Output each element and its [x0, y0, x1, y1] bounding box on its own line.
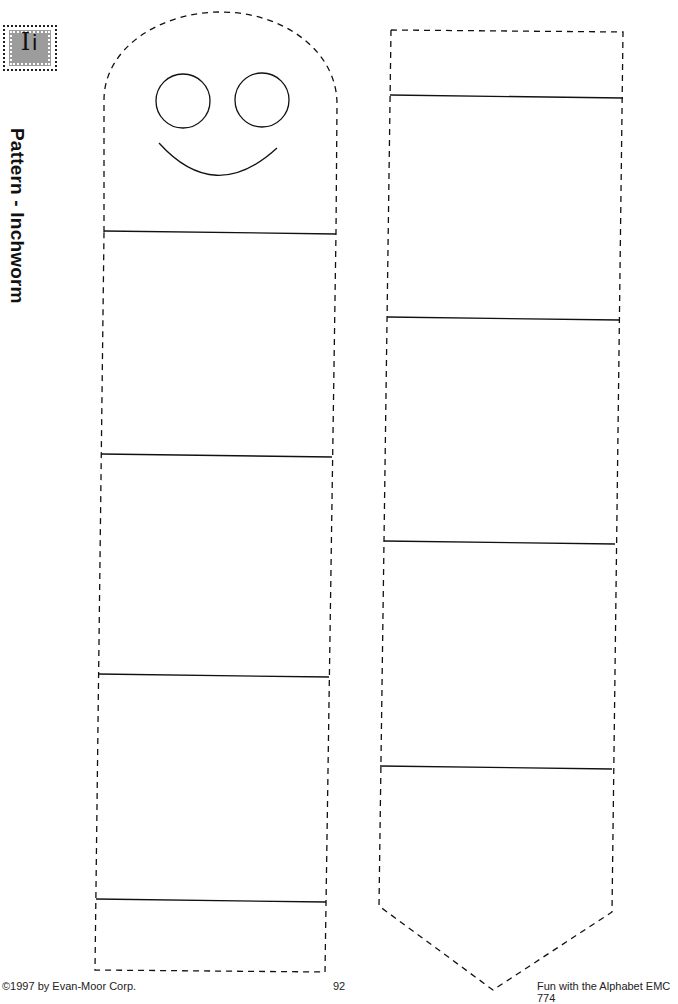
right-eye-icon [235, 73, 289, 127]
inchworm-head-pattern [95, 12, 337, 972]
fold-line-4 [380, 766, 612, 769]
copyright-text: ©1997 by Evan-Moor Corp. [2, 980, 136, 992]
smile-icon [159, 143, 277, 175]
fold-line-2 [101, 454, 332, 457]
fold-line-4 [96, 899, 326, 902]
tail-cut-outline [379, 30, 623, 990]
book-title: Fun with the Alphabet EMC 774 [537, 980, 678, 1004]
fold-line-1 [390, 95, 623, 98]
head-cut-outline [95, 12, 337, 972]
page-number: 92 [333, 980, 345, 992]
left-eye-icon [156, 74, 210, 128]
fold-line-2 [387, 317, 619, 320]
fold-line-3 [98, 674, 329, 677]
inchworm-tail-pattern [379, 30, 623, 990]
fold-line-3 [384, 541, 615, 544]
fold-line-1 [104, 231, 336, 234]
